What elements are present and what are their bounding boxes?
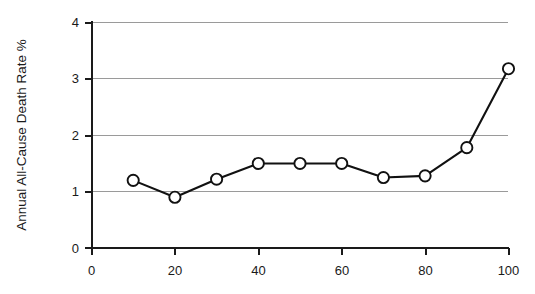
data-point [169, 192, 180, 203]
data-point [294, 158, 305, 169]
y-tick-label-0: 0 [72, 241, 79, 256]
y-tick-label-3: 3 [72, 71, 79, 86]
data-point [378, 172, 389, 183]
x-tick-label-20: 20 [168, 263, 182, 278]
x-tick-label-0: 0 [88, 263, 95, 278]
x-tick-label-80: 80 [418, 263, 432, 278]
line-chart: 4 3 2 1 0 0 20 40 60 80 100 Annual All-C… [0, 0, 535, 294]
data-point [503, 63, 514, 74]
data-point [420, 170, 431, 181]
x-tick-label-100: 100 [498, 263, 520, 278]
data-point [461, 142, 472, 153]
x-tick-label-60: 60 [335, 263, 349, 278]
x-tick-label-40: 40 [251, 263, 265, 278]
data-point [336, 158, 347, 169]
chart-background [0, 0, 535, 294]
data-point [128, 175, 139, 186]
data-point [211, 174, 222, 185]
y-tick-label-4: 4 [72, 15, 79, 30]
chart-container: 4 3 2 1 0 0 20 40 60 80 100 Annual All-C… [0, 0, 535, 294]
y-tick-label-1: 1 [72, 184, 79, 199]
data-point [253, 158, 264, 169]
y-axis-title: Annual All-Cause Death Rate % [14, 39, 29, 230]
y-tick-label-2: 2 [72, 128, 79, 143]
